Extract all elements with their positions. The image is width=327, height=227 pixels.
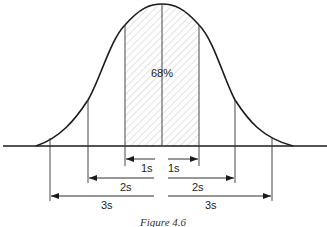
- normal-distribution-diagram: 68% 1s 1s 2s 2s 3s 3s Figure 4.6: [0, 0, 327, 227]
- figure-caption: Figure 4.6: [139, 216, 187, 227]
- 3s-right-label: 3s: [205, 199, 217, 211]
- 2s-left-label: 2s: [120, 181, 132, 193]
- center-percentage-label: 68%: [151, 67, 173, 79]
- 1s-right-label: 1s: [168, 162, 180, 174]
- 1s-left-label: 1s: [141, 162, 153, 174]
- 3s-left-label: 3s: [101, 199, 113, 211]
- 2s-right-label: 2s: [192, 181, 204, 193]
